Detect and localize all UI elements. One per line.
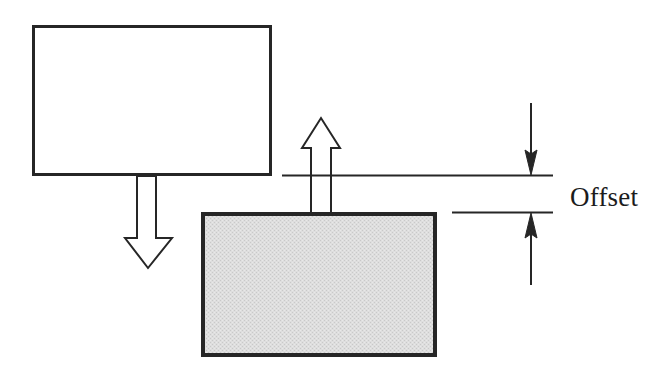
offset-label: Offset [570, 182, 638, 212]
dimension-arrow-down-head [525, 150, 537, 175]
diagram-vector-layer [0, 0, 669, 380]
dimension-arrow-up [525, 213, 537, 285]
dimension-arrow-up-head [525, 213, 537, 238]
up-block-arrow [302, 118, 340, 213]
lower-block [203, 214, 435, 355]
upper-block [34, 27, 271, 175]
down-block-arrow [125, 176, 172, 268]
diagram-canvas: Offset [0, 0, 669, 380]
dimension-arrow-down [525, 103, 537, 175]
